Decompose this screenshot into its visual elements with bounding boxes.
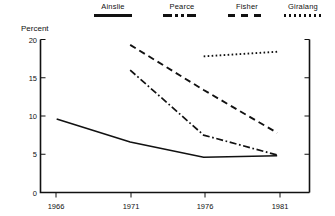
x-tick-label-1966: 1966 bbox=[48, 202, 65, 211]
chart-legend: Ainslie Pearce Fisher Giralang bbox=[0, 0, 335, 24]
legend-item-ainslie: Ainslie bbox=[78, 2, 148, 17]
series-line-giralang bbox=[204, 52, 278, 57]
legend-swatch-dotted-icon bbox=[284, 14, 322, 17]
plot-svg: 20 15 10 5 0 1966 1971 1976 1981 bbox=[0, 24, 335, 216]
y-tick-label-15: 15 bbox=[29, 74, 37, 83]
axis-spines bbox=[41, 40, 310, 193]
plot-area: Percent 20 15 10 bbox=[0, 24, 335, 216]
legend-swatch-solid-icon bbox=[94, 14, 132, 17]
x-tick-label-1976: 1976 bbox=[197, 202, 214, 211]
series-line-pearce bbox=[130, 70, 277, 155]
legend-swatch-dashed-icon bbox=[228, 14, 266, 17]
y-tick-label-5: 5 bbox=[33, 150, 37, 159]
x-tick-label-1981: 1981 bbox=[272, 202, 289, 211]
y-tick-label-10: 10 bbox=[29, 112, 37, 121]
legend-label-pearce: Pearce bbox=[147, 2, 217, 11]
legend-label-giralang: Giralang bbox=[273, 2, 333, 11]
y-tick-label-0: 0 bbox=[33, 189, 37, 198]
line-chart-figure: Ainslie Pearce Fisher Giralang Percent bbox=[0, 0, 335, 216]
x-tick-label-1971: 1971 bbox=[123, 202, 140, 211]
legend-item-fisher: Fisher bbox=[212, 2, 282, 17]
legend-label-fisher: Fisher bbox=[212, 2, 282, 11]
series-group bbox=[57, 45, 277, 157]
y-tick-label-20: 20 bbox=[29, 36, 37, 45]
series-line-ainslie bbox=[57, 119, 277, 157]
legend-swatch-dashdot-icon bbox=[163, 14, 201, 17]
legend-item-giralang: Giralang bbox=[273, 2, 333, 17]
legend-label-ainslie: Ainslie bbox=[78, 2, 148, 11]
legend-item-pearce: Pearce bbox=[147, 2, 217, 17]
